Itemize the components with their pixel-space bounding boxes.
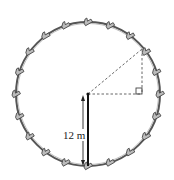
right-angle-marker bbox=[136, 88, 142, 94]
ferris-wheel-diagram bbox=[0, 0, 174, 180]
arrow-head-up-icon bbox=[81, 95, 85, 101]
height-label: 12 m bbox=[62, 129, 86, 141]
dashed-radius-line bbox=[88, 49, 142, 94]
car-icon bbox=[105, 157, 115, 166]
